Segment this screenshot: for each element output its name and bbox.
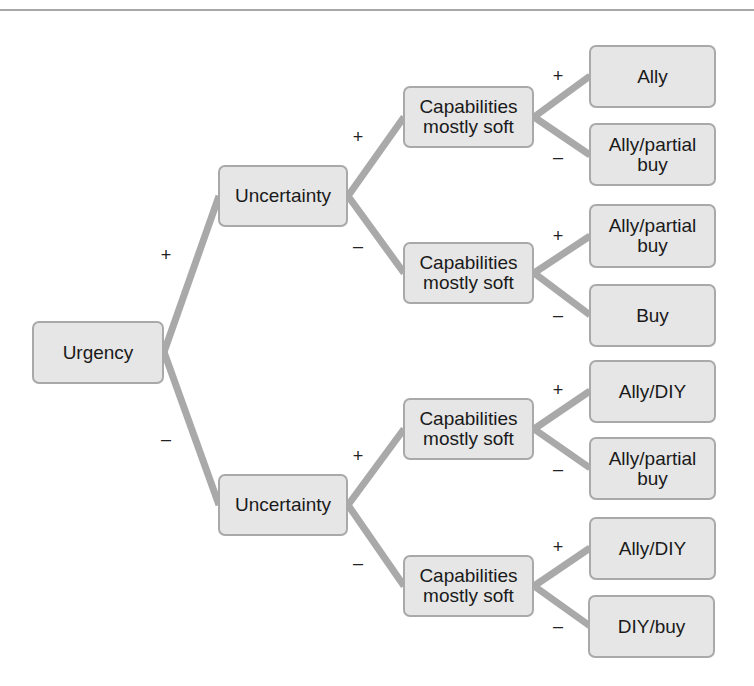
branch-sign-minus: – bbox=[351, 554, 365, 572]
node-leaf: Buy bbox=[589, 284, 716, 347]
branch-sign-minus: – bbox=[551, 306, 565, 324]
branch-sign-plus: + bbox=[351, 447, 365, 465]
node-leaf: Ally/partial buy bbox=[589, 204, 716, 268]
node-leaf: Ally/DIY bbox=[589, 360, 716, 423]
branch-sign-plus: + bbox=[551, 67, 565, 85]
edge-urgency-uncertainty-plus bbox=[164, 196, 219, 352]
node-urgency: Urgency bbox=[32, 321, 164, 384]
node-uncertainty: Uncertainty bbox=[218, 474, 348, 536]
node-leaf: Ally bbox=[589, 45, 716, 108]
edge-unc2-cap3 bbox=[348, 429, 404, 505]
branch-sign-minus: – bbox=[351, 237, 365, 255]
branch-sign-plus: + bbox=[551, 227, 565, 245]
branch-sign-minus: – bbox=[159, 430, 173, 448]
node-leaf: Ally/DIY bbox=[589, 517, 716, 580]
node-uncertainty: Uncertainty bbox=[218, 165, 348, 227]
edge-unc1-cap2 bbox=[348, 196, 404, 273]
branch-sign-minus: – bbox=[551, 148, 565, 166]
edge-urgency-uncertainty-minus bbox=[164, 352, 219, 505]
edge-unc2-cap4 bbox=[348, 505, 404, 586]
node-leaf: Ally/partial buy bbox=[589, 437, 716, 500]
branch-sign-plus: + bbox=[551, 538, 565, 556]
branch-sign-minus: – bbox=[551, 460, 565, 478]
node-capabilities: Capabilities mostly soft bbox=[403, 398, 534, 460]
node-leaf: DIY/buy bbox=[588, 595, 715, 658]
branch-sign-plus: + bbox=[159, 246, 173, 264]
node-leaf: Ally/partial buy bbox=[589, 123, 716, 186]
branch-sign-plus: + bbox=[551, 381, 565, 399]
node-capabilities: Capabilities mostly soft bbox=[403, 555, 534, 617]
node-capabilities: Capabilities mostly soft bbox=[403, 242, 534, 304]
node-capabilities: Capabilities mostly soft bbox=[403, 86, 534, 148]
branch-sign-minus: – bbox=[551, 617, 565, 635]
branch-sign-plus: + bbox=[351, 128, 365, 146]
